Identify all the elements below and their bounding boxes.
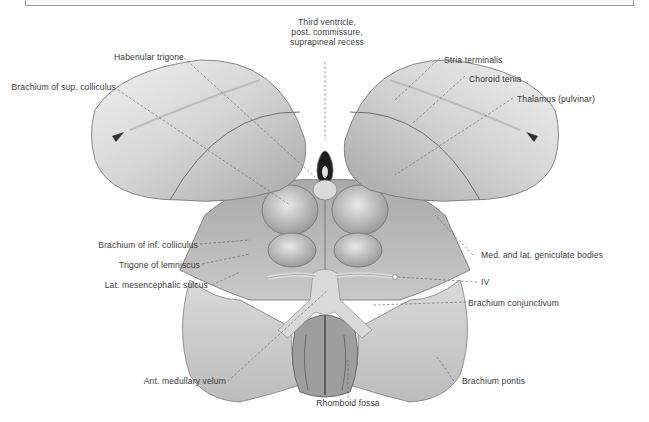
- label-rhomboid-fossa: Rhomboid fossa: [300, 398, 396, 408]
- label-third-ventricle: Third ventricle, post. commissure, supra…: [284, 17, 370, 47]
- rhomboid-fossa: [292, 315, 357, 397]
- third-ventricle: [313, 151, 337, 200]
- left-thalamus: [92, 60, 306, 201]
- label-choroid-tenia: Choroid tenia: [469, 74, 521, 84]
- label-trigone-lemniscus: Trigone of lemniscus: [60, 260, 200, 270]
- label-habenular-trigone: Habenular trigone: [100, 52, 184, 62]
- label-ant-medullary-velum: Ant. medullary velum: [80, 376, 226, 386]
- label-brachium-pontis: Brachium pontis: [462, 376, 525, 386]
- label-brachium-conjunctivum: Brachium conjunctivum: [468, 298, 559, 308]
- right-thalamus: [344, 60, 558, 201]
- label-stria-terminalis: Stria terminalis: [444, 55, 502, 65]
- label-iv: IV: [481, 277, 489, 287]
- label-thalamus-pulvinar: Thalamus (pulvinar): [517, 94, 595, 104]
- label-brachium-inf-colliculus: Brachium of inf. colliculus: [40, 240, 198, 250]
- label-lat-mesencephalic-sulcus: Lat. mesencephalic sulcus: [40, 280, 208, 290]
- brainstem-illustration: [0, 0, 649, 422]
- label-geniculate-bodies: Med. and lat. geniculate bodies: [481, 250, 603, 260]
- label-brachium-sup-colliculus: Brachium of sup. colliculus: [10, 82, 116, 92]
